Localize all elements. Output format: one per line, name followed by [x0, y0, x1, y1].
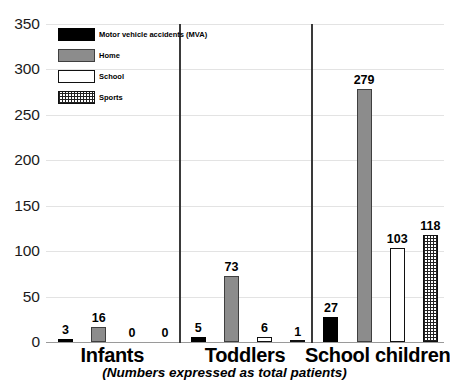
bar-home-0	[91, 327, 106, 342]
y-tick-label-250: 250	[2, 106, 40, 124]
value-label-home-2: 279	[354, 73, 375, 87]
y-tick-label-200: 200	[2, 151, 40, 169]
legend-item-home: Home	[58, 47, 208, 64]
y-tick-label-50: 50	[2, 288, 40, 306]
bar-mva-1	[191, 337, 206, 342]
bar-sports-2	[423, 235, 438, 342]
value-label-home-1: 73	[224, 260, 238, 274]
category-label-0: Infants	[81, 344, 144, 367]
category-label-2: School children	[305, 344, 450, 367]
value-label-sports-1: 1	[294, 325, 301, 339]
gridline-100	[46, 251, 444, 252]
bar-school-2	[390, 248, 405, 342]
value-label-sports-2: 118	[420, 219, 440, 233]
bar-sports-1	[290, 340, 305, 342]
y-tick-label-100: 100	[2, 242, 40, 260]
legend-label-home: Home	[99, 52, 120, 60]
legend-swatch-school-icon	[58, 70, 95, 83]
gridline-50	[46, 297, 444, 298]
bar-home-2	[357, 89, 372, 342]
value-label-school-0: 0	[128, 326, 135, 340]
value-label-mva-2: 27	[324, 301, 338, 315]
legend-swatch-mva-icon	[58, 28, 95, 41]
y-tick-label-350: 350	[2, 15, 40, 33]
bar-mva-0	[58, 339, 73, 342]
legend-label-mva: Motor vehicle accidents (MVA)	[99, 31, 207, 39]
gridline-150	[46, 206, 444, 207]
y-tick-label-150: 150	[2, 197, 40, 215]
chart-legend: Motor vehicle accidents (MVA) Home Schoo…	[58, 26, 208, 110]
legend-item-sports: Sports	[58, 89, 208, 106]
legend-swatch-home-icon	[58, 49, 95, 62]
category-label-1: Toddlers	[205, 344, 286, 367]
value-label-mva-0: 3	[62, 323, 69, 337]
value-label-home-0: 16	[92, 311, 106, 325]
plot-area: 050100150200250300350 316005736127279103…	[46, 24, 444, 342]
bar-school-1	[257, 337, 272, 342]
y-tick-label-300: 300	[2, 60, 40, 78]
gridline-350	[46, 24, 444, 25]
gridline-250	[46, 115, 444, 116]
bar-home-1	[224, 276, 239, 342]
value-label-sports-0: 0	[162, 326, 169, 340]
gridline-200	[46, 160, 444, 161]
value-label-school-1: 6	[261, 321, 268, 335]
gridline-0	[46, 342, 444, 343]
value-label-school-2: 103	[387, 232, 408, 246]
legend-label-school: School	[99, 73, 124, 81]
legend-item-mva: Motor vehicle accidents (MVA)	[58, 26, 208, 43]
bar-mva-2	[323, 317, 338, 342]
value-label-mva-1: 5	[195, 321, 202, 335]
legend-label-sports: Sports	[99, 94, 123, 102]
legend-swatch-sports-icon	[58, 91, 95, 104]
group-separator-2	[311, 24, 313, 343]
y-tick-label-0: 0	[2, 333, 40, 351]
legend-item-school: School	[58, 68, 208, 85]
chart-caption: (Numbers expressed as total patients)	[0, 365, 449, 380]
